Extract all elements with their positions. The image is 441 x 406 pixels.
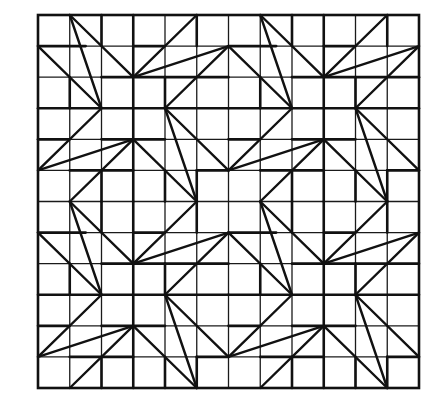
grid-lines [38,15,419,388]
star-quilt-diagram [0,0,441,406]
